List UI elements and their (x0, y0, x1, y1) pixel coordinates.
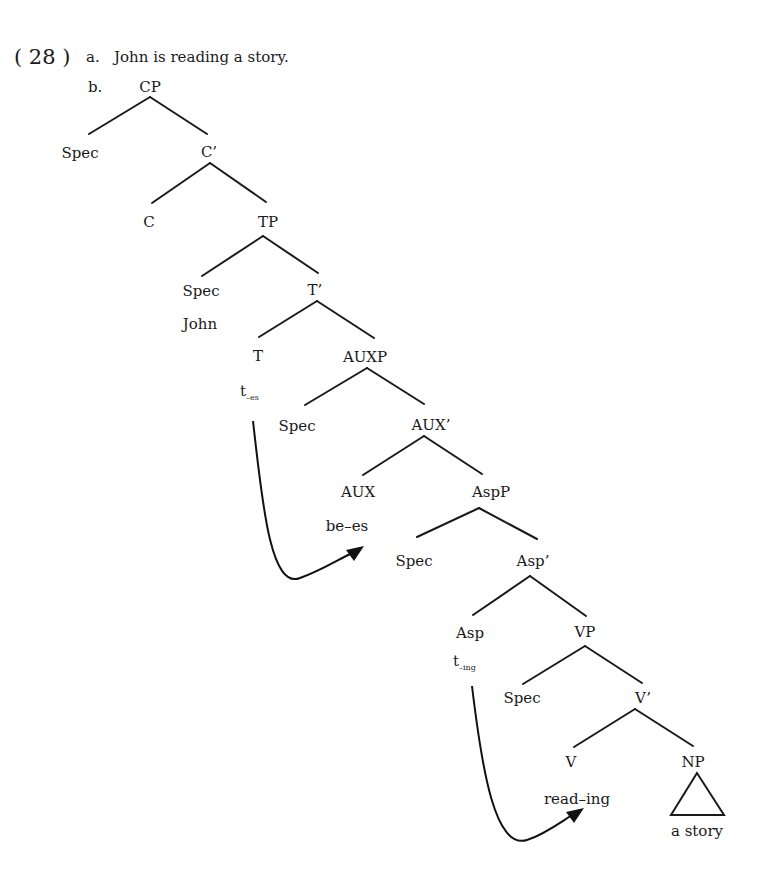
node-aux: AUX (340, 483, 375, 501)
node-c: C (143, 213, 154, 231)
example-sentence: John is reading a story. (112, 48, 289, 66)
node-aux-bar: AUX’ (411, 416, 451, 434)
node-v-bar: V’ (634, 689, 651, 707)
node-t-bar: T’ (308, 281, 323, 299)
node-cp: CP (139, 78, 161, 96)
edge-auxbar-aux (363, 436, 424, 475)
word-john: John (181, 315, 218, 333)
example-number: ( 28 ) (14, 45, 70, 69)
movement-arrow-es (253, 421, 352, 579)
edge-auxp-auxbar (367, 368, 424, 404)
edge-aspbar-asp (473, 576, 530, 615)
edge-tp-tbar (263, 236, 318, 273)
node-vp-spec: Spec (503, 689, 540, 707)
node-asp: Asp (455, 624, 484, 642)
np-triangle (671, 773, 724, 815)
arrowhead-icon (346, 546, 364, 561)
word-a-story: a story (671, 822, 724, 840)
trace-es: t–es (240, 382, 259, 402)
edge-aspp-aspbar (479, 508, 537, 539)
edge-tbar-auxp (317, 301, 374, 338)
node-c-bar: C’ (201, 143, 217, 161)
arrowhead-icon (566, 808, 584, 823)
node-aspp: AspP (471, 483, 510, 501)
edge-vbar-np (635, 709, 693, 746)
node-cp-spec: Spec (61, 144, 98, 162)
example-b-label: b. (88, 78, 102, 96)
movement-arrow-ing (472, 686, 572, 841)
edge-cbar-c (152, 163, 210, 203)
node-auxp: AUXP (342, 348, 387, 366)
node-aspp-spec: Spec (395, 552, 432, 570)
node-v: V (565, 753, 578, 771)
edge-auxp-spec (305, 368, 367, 405)
trace-ing: t–ing (453, 652, 476, 672)
edge-tp-spec (202, 236, 263, 276)
edge-aspbar-vp (530, 576, 586, 616)
edge-vp-vbar (585, 646, 642, 683)
node-tp: TP (258, 213, 278, 231)
word-be-es: be–es (326, 517, 369, 535)
edge-cbar-tp (210, 163, 266, 202)
edge-vp-spec (523, 646, 585, 684)
edge-cp-cbar (150, 97, 207, 134)
node-tp-spec: Spec (182, 282, 219, 300)
syntax-tree-diagram: ( 28 ) a. John is reading a story. b. CP… (0, 0, 764, 882)
edge-aspp-spec (417, 508, 479, 537)
node-auxp-spec: Spec (278, 417, 315, 435)
example-a-label: a. (86, 48, 100, 66)
edge-vbar-v (574, 709, 635, 747)
node-vp: VP (574, 623, 596, 641)
edge-cp-spec (89, 97, 150, 134)
edge-auxbar-aspp (424, 436, 482, 474)
word-read-ing: read–ing (544, 790, 611, 808)
node-t: T (253, 347, 263, 365)
node-np: NP (681, 753, 704, 771)
node-asp-bar: Asp’ (516, 552, 550, 570)
edge-tbar-t (259, 301, 317, 337)
